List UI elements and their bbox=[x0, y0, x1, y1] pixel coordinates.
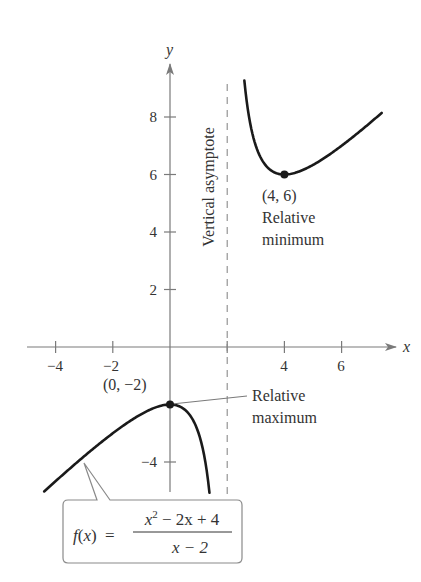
y-tick-label-2: 2 bbox=[150, 282, 158, 298]
formula-lhs: f(x) = bbox=[73, 526, 114, 545]
y-axis-label: y bbox=[164, 41, 174, 59]
relative-minimum-point bbox=[280, 171, 288, 179]
vertical-asymptote-label: Vertical asymptote bbox=[200, 127, 218, 247]
relative-maximum-label-line2: maximum bbox=[252, 409, 317, 426]
curve-right-branch bbox=[244, 81, 381, 175]
y-tick-label-6: 6 bbox=[150, 167, 158, 183]
curve-left-branch bbox=[44, 405, 209, 493]
relative-maximum-coords: (0, −2) bbox=[103, 376, 147, 394]
x-tick-label-6: 6 bbox=[337, 358, 345, 374]
formula-denominator: x − 2 bbox=[171, 538, 209, 557]
x-tick-label-m4: −4 bbox=[47, 358, 63, 374]
x-axis-label: x bbox=[402, 338, 410, 355]
relative-minimum-coords: (4, 6) bbox=[262, 187, 297, 205]
relative-maximum-point bbox=[166, 401, 174, 409]
relative-maximum-label-line1: Relative bbox=[252, 387, 305, 404]
y-tick-label-8: 8 bbox=[150, 109, 158, 125]
y-tick-label-4: 4 bbox=[150, 224, 158, 240]
x-tick-label-m2: −2 bbox=[103, 358, 119, 374]
relative-minimum-label-line1: Relative bbox=[262, 209, 315, 226]
formula-callout: f(x) = x2 − 2x + 4 x − 2 bbox=[63, 463, 242, 563]
relative-maximum-leader bbox=[172, 396, 247, 404]
y-tick-label-m4: −4 bbox=[141, 454, 157, 470]
chart: x y −4 −2 4 6 8 6 4 2 −4 Vertical asympt… bbox=[0, 0, 421, 582]
x-tick-label-4: 4 bbox=[280, 358, 288, 374]
relative-minimum-label-line2: minimum bbox=[262, 231, 325, 248]
